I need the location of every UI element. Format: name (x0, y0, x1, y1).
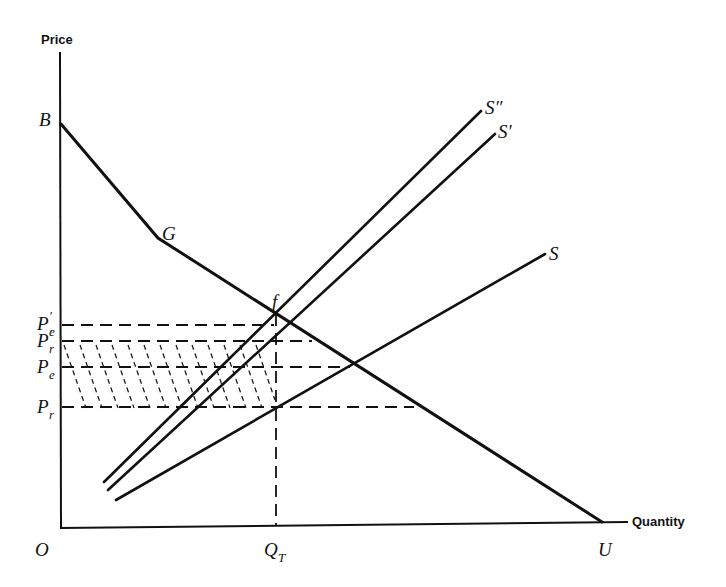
supply-curve-s (116, 254, 545, 500)
y-axis-label: Price (41, 32, 73, 47)
supply-s-prime-label: S′ (498, 121, 513, 142)
demand-curve (61, 124, 602, 522)
svg-text:′: ′ (49, 326, 52, 341)
supply-s-double-prime-label: S″ (485, 97, 504, 118)
price-label-pe: P e (36, 356, 55, 382)
svg-text:T: T (278, 550, 286, 565)
quantity-label-qt: Q T (264, 539, 286, 565)
svg-text:r: r (49, 341, 55, 356)
svg-text:P: P (36, 356, 49, 377)
supply-curve-s-double-prime (104, 111, 481, 482)
price-label-pr: P r (36, 396, 55, 422)
point-b-label: B (39, 109, 51, 130)
svg-text:e: e (49, 367, 55, 382)
svg-text:′: ′ (49, 308, 52, 323)
point-g-label: G (162, 223, 176, 244)
hatched-region (64, 345, 275, 408)
svg-text:r: r (49, 407, 55, 422)
svg-text:P: P (36, 330, 49, 351)
svg-text:Q: Q (264, 539, 278, 560)
supply-curve-s-prime (108, 134, 495, 490)
origin-label: O (35, 539, 49, 560)
svg-text:P: P (36, 396, 49, 417)
x-axis (60, 522, 628, 528)
supply-demand-diagram: Price Quantity O B G f U S″ S′ S P ′ e P… (0, 0, 726, 587)
supply-s-label: S (549, 243, 559, 264)
point-u-label: U (598, 539, 613, 560)
x-axis-label: Quantity (632, 514, 685, 529)
